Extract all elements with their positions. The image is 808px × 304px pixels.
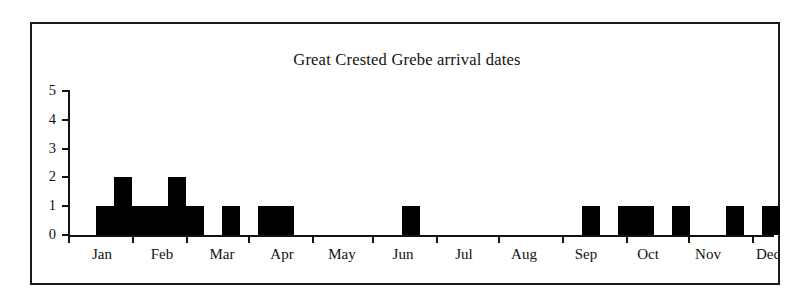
- x-axis-label-feb: Feb: [132, 246, 192, 263]
- x-tick-boundary-6: [436, 237, 438, 243]
- y-tick-label-4: 4: [34, 111, 56, 128]
- x-tick-boundary-7: [498, 237, 500, 243]
- bar-mar-3: [258, 206, 294, 235]
- x-axis-label-mar: Mar: [192, 246, 252, 263]
- x-axis-label-sep: Sep: [556, 246, 616, 263]
- x-axis-line: [68, 235, 774, 237]
- bar-may-1: [402, 206, 420, 235]
- x-axis-label-jan: Jan: [72, 246, 132, 263]
- bar-feb-3: [186, 206, 204, 235]
- y-tick-label-2: 2: [34, 168, 56, 185]
- x-axis-label-jun: Jun: [373, 246, 433, 263]
- y-tick-3: [62, 148, 70, 150]
- y-tick-0: [62, 234, 70, 236]
- bar-nov-1: [762, 206, 780, 235]
- y-tick-label-0: 0: [34, 226, 56, 243]
- y-axis-line: [68, 90, 70, 237]
- chart-screenshot: Great Crested Grebe arrival dates 0 1 2 …: [0, 0, 808, 304]
- x-tick-boundary-1: [132, 237, 134, 243]
- x-tick-boundary-4: [312, 237, 314, 243]
- bar-feb-2: [168, 177, 186, 235]
- x-tick-boundary-8: [562, 237, 564, 243]
- y-tick-label-5: 5: [34, 82, 56, 99]
- bar-aug-3: [582, 206, 600, 235]
- x-axis-label-aug: Aug: [494, 246, 554, 263]
- x-tick-boundary-10: [688, 237, 690, 243]
- x-tick-boundary-0: [68, 237, 70, 243]
- bar-jan-3: [132, 206, 168, 235]
- x-axis-label-may: May: [312, 246, 372, 263]
- bar-jan-1: [96, 206, 114, 235]
- bar-sep-3: [672, 206, 690, 235]
- x-tick-boundary-5: [372, 237, 374, 243]
- x-tick-boundary-9: [626, 237, 628, 243]
- bar-mar-1: [222, 206, 240, 235]
- x-axis-label-apr: Apr: [252, 246, 312, 263]
- x-axis-label-jul: Jul: [434, 246, 494, 263]
- x-tick-boundary-11: [752, 237, 754, 243]
- bar-sep-1: [618, 206, 654, 235]
- y-tick-4: [62, 119, 70, 121]
- y-tick-label-3: 3: [34, 140, 56, 157]
- x-axis-label-dec: Dec: [738, 246, 798, 263]
- bar-jan-2: [114, 177, 132, 235]
- bar-oct-2: [726, 206, 744, 235]
- x-axis-label-oct: Oct: [618, 246, 678, 263]
- y-tick-1: [62, 205, 70, 207]
- y-tick-2: [62, 176, 70, 178]
- y-tick-5: [62, 90, 70, 92]
- chart-frame: Great Crested Grebe arrival dates 0 1 2 …: [30, 22, 780, 285]
- plot-area: 0 1 2 3 4 5 Jan Fe: [32, 24, 778, 283]
- x-tick-boundary-2: [186, 237, 188, 243]
- x-tick-boundary-3: [248, 237, 250, 243]
- x-axis-label-nov: Nov: [678, 246, 738, 263]
- y-tick-label-1: 1: [34, 197, 56, 214]
